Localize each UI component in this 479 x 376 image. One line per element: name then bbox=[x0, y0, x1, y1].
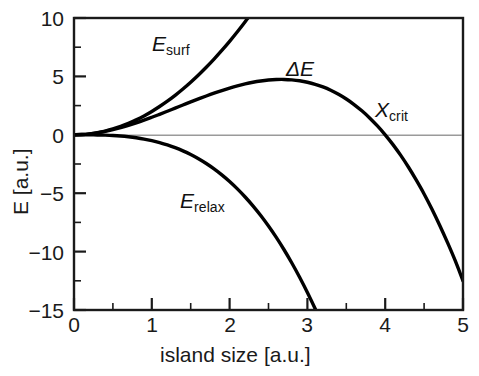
curve-label-e-surf: Esurf bbox=[152, 33, 190, 54]
x-tick-label-4: 4 bbox=[365, 314, 405, 335]
curve-label-x-crit-subscript: crit bbox=[389, 108, 408, 124]
curve-label-e-relax-subscript: relax bbox=[194, 199, 225, 215]
x-tick-label-1: 1 bbox=[132, 314, 172, 335]
curve-label-e-relax: Erelax bbox=[180, 190, 225, 211]
x-tick-label-2: 2 bbox=[210, 314, 250, 335]
curve-label-delta-e: ΔE bbox=[286, 58, 314, 79]
curve-label-e-relax-symbol: E bbox=[180, 189, 194, 212]
y-tick-label-10: 10 bbox=[18, 8, 64, 29]
x-tick-label-5: 5 bbox=[443, 314, 479, 335]
y-tick-label-0: 0 bbox=[18, 125, 64, 146]
y-axis-title: E [a.u.] bbox=[10, 148, 31, 215]
x-axis-title: island size [a.u.] bbox=[160, 344, 311, 365]
x-tick-label-3: 3 bbox=[287, 314, 327, 335]
curve-label-delta-e-symbol: ΔE bbox=[286, 57, 314, 80]
y-tick-label-minus10: −10 bbox=[8, 242, 64, 263]
curve-label-e-surf-subscript: surf bbox=[166, 42, 190, 58]
curve-label-x-crit: Xcrit bbox=[375, 99, 408, 120]
x-tick-label-0: 0 bbox=[54, 314, 94, 335]
curve-label-x-crit-symbol: X bbox=[375, 98, 389, 121]
curve-label-e-surf-symbol: E bbox=[152, 32, 166, 55]
y-tick-label-5: 5 bbox=[18, 66, 64, 87]
figure-container: 10 5 0 −5 −10 −15 0 1 2 3 4 5 E [a.u.] i… bbox=[0, 0, 479, 376]
curve-e-relax bbox=[74, 135, 463, 376]
